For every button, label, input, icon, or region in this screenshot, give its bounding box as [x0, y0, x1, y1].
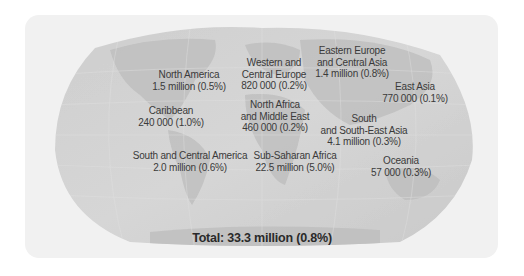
- region-label-south-southeast-asia: South and South-East Asia 4.1 million (0…: [321, 113, 408, 148]
- region-label-south-central-america: South and Central America 2.0 million (0…: [133, 150, 248, 173]
- region-label-north-america: North America 1.5 million (0.5%): [152, 69, 226, 92]
- region-label-oceania: Oceania 57 000 (0.3%): [371, 155, 431, 178]
- region-label-north-africa-middle-east: North Africa and Middle East 460 000 (0.…: [241, 99, 310, 134]
- region-label-east-asia: East Asia 770 000 (0.1%): [382, 81, 448, 104]
- region-label-western-central-europe: Western and Central Europe 820 000 (0.2%…: [241, 57, 307, 92]
- total-label: Total: 33.3 million (0.8%): [192, 231, 332, 245]
- region-label-eastern-europe-central-asia: Eastern Europe and Central Asia 1.4 mill…: [315, 45, 389, 80]
- region-label-caribbean: Caribbean 240 000 (1.0%): [138, 105, 204, 128]
- region-label-sub-saharan-africa: Sub-Saharan Africa 22.5 million (5.0%): [253, 150, 336, 173]
